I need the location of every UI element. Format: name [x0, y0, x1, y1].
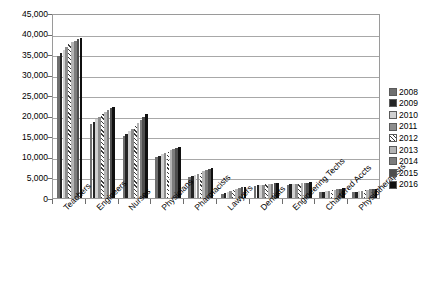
x-tick-mark	[347, 199, 348, 204]
legend-item: 2009	[389, 98, 418, 110]
legend: 200820092010201120122013201420152016	[389, 86, 418, 190]
legend-item: 2013	[389, 144, 418, 156]
x-tick-mark	[183, 199, 184, 204]
x-tick-mark	[150, 199, 151, 204]
legend-swatch	[389, 157, 397, 165]
y-tick-label: 15,000	[0, 133, 48, 142]
legend-label: 2015	[399, 169, 418, 178]
bar-group	[90, 15, 116, 198]
y-tick-label: 25,000	[0, 92, 48, 101]
bar	[80, 38, 83, 198]
bar-group	[155, 15, 181, 198]
x-tick-mark	[314, 199, 315, 204]
legend-label: 2008	[399, 88, 418, 97]
y-tick-label: 30,000	[0, 71, 48, 80]
legend-item: 2015	[389, 167, 418, 179]
legend-swatch	[389, 99, 397, 107]
legend-swatch	[389, 134, 397, 142]
legend-swatch	[389, 146, 397, 154]
x-tick-mark	[249, 199, 250, 204]
legend-item: 2012	[389, 132, 418, 144]
x-tick-mark	[216, 199, 217, 204]
y-tick-label: 35,000	[0, 51, 48, 60]
legend-swatch	[389, 88, 397, 96]
x-tick-mark	[52, 199, 53, 204]
legend-label: 2010	[399, 111, 418, 120]
legend-label: 2009	[399, 99, 418, 108]
bar-group	[254, 15, 280, 198]
y-tick-label: 0	[0, 195, 48, 204]
legend-label: 2016	[399, 180, 418, 189]
legend-item: 2011	[389, 121, 418, 133]
bar-chart: 45,00040,00035,00030,00025,00020,00015,0…	[0, 0, 434, 290]
legend-item: 2010	[389, 109, 418, 121]
legend-swatch	[389, 169, 397, 177]
legend-item: 2008	[389, 86, 418, 98]
x-tick-mark	[85, 199, 86, 204]
x-tick-mark	[282, 199, 283, 204]
bar-group	[287, 15, 313, 198]
bar-group	[188, 15, 214, 198]
bar-group	[123, 15, 149, 198]
legend-item: 2014	[389, 156, 418, 168]
y-tick-label: 20,000	[0, 112, 48, 121]
y-tick-label: 45,000	[0, 10, 48, 19]
y-tick-label: 10,000	[0, 153, 48, 162]
legend-label: 2013	[399, 146, 418, 155]
legend-item: 2016	[389, 179, 418, 191]
legend-swatch	[389, 111, 397, 119]
legend-label: 2011	[399, 122, 417, 131]
bar-group	[57, 15, 83, 198]
bar-group	[221, 15, 247, 198]
y-tick-label: 5,000	[0, 174, 48, 183]
bar	[145, 114, 148, 198]
legend-label: 2014	[399, 157, 418, 166]
legend-swatch	[389, 123, 397, 131]
legend-swatch	[389, 181, 397, 189]
y-tick-label: 40,000	[0, 30, 48, 39]
x-tick-mark	[118, 199, 119, 204]
legend-label: 2012	[399, 134, 418, 143]
